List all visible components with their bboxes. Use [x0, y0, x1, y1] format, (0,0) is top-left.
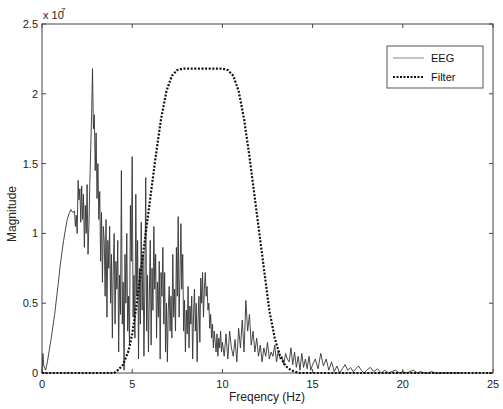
chart-canvas: 0510152025 00.511.522.5 Magnitude Freqen… [0, 0, 503, 409]
y-axis-label: Magnitude [5, 186, 19, 242]
x-tick-label: 0 [39, 378, 45, 390]
y-tick-label: 1.5 [23, 158, 38, 170]
chart-figure: 0510152025 00.511.522.5 Magnitude Freqen… [0, 0, 503, 409]
x-tick-label: 25 [487, 378, 499, 390]
x-axis-label: Freqency (Hz) [229, 390, 305, 404]
x-tick-label: 15 [306, 378, 318, 390]
x-tick-label: 10 [216, 378, 228, 390]
legend: EEG Filter [387, 46, 483, 88]
x-tick-label: 5 [129, 378, 135, 390]
legend-filter-label: Filter [431, 71, 456, 83]
y-tick-label: 2 [32, 88, 38, 100]
y-tick-label: 0.5 [23, 297, 38, 309]
x-tick-label: 20 [397, 378, 409, 390]
legend-eeg-label: EEG [431, 52, 454, 64]
y-multiplier: x 10 7 [43, 6, 66, 21]
y-tick-label: 2.5 [23, 18, 38, 30]
y-tick-label: 1 [32, 227, 38, 239]
y-tick-label: 0 [32, 367, 38, 379]
y-multiplier-exponent: 7 [61, 6, 66, 15]
